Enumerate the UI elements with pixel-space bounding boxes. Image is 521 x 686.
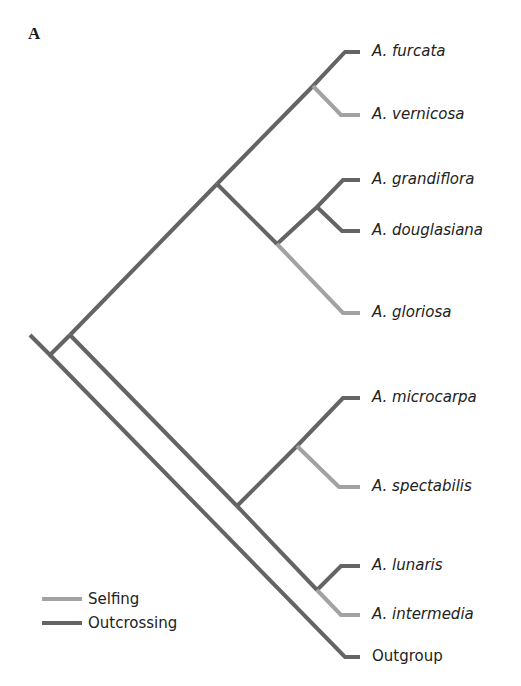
- branch-furcata: [217, 52, 360, 184]
- branch-lunaris: [317, 566, 360, 590]
- branch-grandiflora: [277, 180, 360, 244]
- branch-top-clade: [70, 184, 217, 335]
- branch-root: [30, 335, 52, 357]
- branch-bottom-clade: [70, 335, 237, 506]
- branch-spectabilis: [297, 446, 360, 487]
- outcrossing-swatch-icon: [42, 621, 82, 625]
- phylogenetic-tree: [0, 0, 521, 686]
- legend: Selfing Outcrossing: [42, 587, 177, 635]
- taxon-label-microcarpa: A. microcarpa: [372, 390, 477, 405]
- branch-intermedia: [317, 590, 360, 615]
- branch-douglasiana: [317, 207, 360, 231]
- taxon-label-outgroup: Outgroup: [372, 649, 443, 664]
- legend-label-selfing: Selfing: [88, 590, 139, 608]
- taxon-label-intermedia: A. intermedia: [372, 607, 474, 622]
- branch-ingroup-stem: [50, 335, 70, 355]
- branch-vernicosa: [313, 86, 360, 115]
- taxon-label-furcata: A. furcata: [372, 44, 446, 59]
- taxon-label-grandiflora: A. grandiflora: [372, 172, 474, 187]
- legend-item-outcrossing: Outcrossing: [42, 611, 177, 635]
- taxon-label-spectabilis: A. spectabilis: [372, 479, 472, 494]
- taxon-label-lunaris: A. lunaris: [372, 558, 443, 573]
- legend-item-selfing: Selfing: [42, 587, 177, 611]
- legend-label-outcrossing: Outcrossing: [88, 614, 177, 632]
- selfing-swatch-icon: [42, 597, 82, 601]
- taxon-label-vernicosa: A. vernicosa: [372, 107, 464, 122]
- branch-microcarpa: [237, 398, 360, 506]
- branch-gloriosa: [277, 244, 360, 313]
- branch-lunaris-stem: [237, 506, 317, 590]
- taxon-label-gloriosa: A. gloriosa: [372, 305, 451, 320]
- taxon-label-douglasiana: A. douglasiana: [372, 223, 483, 238]
- branch-inner-top: [217, 184, 277, 244]
